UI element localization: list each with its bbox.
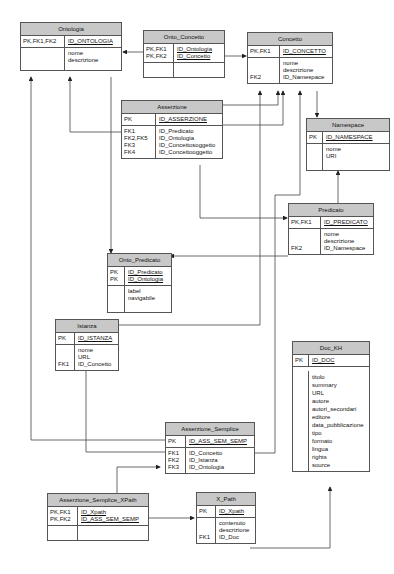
- pk-keys: PK: [166, 436, 186, 447]
- attr-section: [144, 63, 224, 77]
- entity-asserzione-semplice-xpath[interactable]: Asserzione_Semplice_XPath PK,FK1 PK,FK2 …: [47, 493, 149, 541]
- pk-keys: PK: [122, 114, 156, 125]
- entity-title: Onto_Predicato: [108, 254, 171, 267]
- attr-keys: FK2: [289, 229, 321, 254]
- pk-fields: ID_Xpath: [216, 506, 255, 517]
- attr-fields: [174, 63, 224, 77]
- pk-fields: ID_ONTOLOGIA: [65, 36, 121, 47]
- pk-section: PK ID_ISTANZA: [56, 333, 118, 345]
- attr-keys: FK2: [248, 58, 280, 83]
- attr-section: titolo summary URL autore autori_seconda…: [293, 367, 369, 471]
- entity-title: Predicato: [289, 204, 373, 217]
- pk-section: PK ID_DOC: [293, 355, 369, 367]
- attr-section: FK1 contenuto descrizione ID_Doc: [197, 518, 255, 543]
- attr-section: nome descrizione: [21, 48, 121, 70]
- pk-section: PK ID_Xpath: [197, 506, 255, 518]
- pk-field: ID_Predicato ID_Ontologia: [128, 269, 163, 282]
- attr-keys: FK1: [197, 518, 216, 543]
- entity-asserzione-semplice[interactable]: Asserzione_Semplice PK ID_ASS_SEM_SEMP F…: [165, 422, 255, 474]
- pk-field: ID_DOC: [312, 357, 335, 363]
- pk-section: PK,FK1 PK,FK2 ID_Xpath ID_ASS_SEM_SEMP: [48, 507, 148, 526]
- entity-ontologia[interactable]: Ontologia PK,FK1,FK2 ID_ONTOLOGIA nome d…: [20, 22, 122, 71]
- pk-section: PK,FK1 PK,FK2 ID_Ontologia ID_Concetto: [144, 44, 224, 63]
- pk-section: PK ID_ASS_SEM_SEMP: [166, 436, 254, 448]
- pk-field: ID_ISTANZA: [78, 335, 112, 341]
- pk-section: PK ID_ASSERZIONE: [122, 114, 222, 126]
- attr-section: label navigabile: [108, 286, 171, 312]
- pk-keys: PK: [56, 333, 75, 344]
- entity-title: X_Path: [197, 493, 255, 506]
- attr-section: FK1 nome URL ID_Concetto: [56, 345, 118, 370]
- entity-title: Ontologia: [21, 23, 121, 36]
- pk-fields: ID_Xpath ID_ASS_SEM_SEMP: [78, 507, 148, 525]
- entity-title: Asserzione: [122, 101, 222, 114]
- pk-fields: ID_PREDICATO: [321, 217, 373, 228]
- attr-keys: [144, 63, 174, 77]
- relationship-lines: [0, 0, 394, 574]
- attr-fields: titolo summary URL autore autori_seconda…: [309, 371, 369, 471]
- entity-title: Concetto: [248, 33, 332, 46]
- attr-fields: nome URI: [323, 144, 389, 170]
- attr-keys: [48, 526, 78, 540]
- pk-keys: PK,FK1 PK,FK2: [48, 507, 78, 525]
- entity-asserzione[interactable]: Asserzione PK ID_ASSERZIONE FK1 FK2,FK5 …: [121, 100, 223, 159]
- entity-title: Istanza: [56, 320, 118, 333]
- pk-keys: PK: [307, 132, 323, 143]
- pk-field: ID_Xpath: [219, 508, 244, 514]
- attr-fields: ID_Predicato ID_Ontologia ID_Concettosog…: [156, 126, 222, 158]
- attr-keys: [21, 48, 65, 70]
- pk-keys: PK,FK1 PK,FK2: [144, 44, 174, 62]
- pk-field: ID_Xpath ID_ASS_SEM_SEMP: [81, 509, 139, 522]
- pk-fields: ID_Ontologia ID_Concetto: [174, 44, 224, 62]
- entity-title: Asserzione_Semplice_XPath: [48, 494, 148, 507]
- attr-fields: nome descrizione ID_Namespace: [280, 58, 332, 83]
- entity-onto-concetto[interactable]: Onto_Concetto PK,FK1 PK,FK2 ID_Ontologia…: [143, 30, 225, 78]
- pk-section: PK,FK1 ID_CONCETTO: [248, 46, 332, 58]
- attr-fields: ID_Concetto ID_Istanza ID_Ontologia: [186, 448, 254, 473]
- pk-keys: PK,FK1: [289, 217, 321, 228]
- attr-fields: label navigabile: [125, 286, 171, 312]
- attr-keys: FK1 FK2 FK3: [166, 448, 186, 473]
- entity-title: Asserzione_Semplice: [166, 423, 254, 436]
- pk-fields: ID_ISTANZA: [75, 333, 118, 344]
- attr-section: nome URI: [307, 144, 389, 170]
- pk-field: ID_ASSERZIONE: [159, 116, 207, 122]
- entity-doc-kh[interactable]: Doc_KH PK ID_DOC titolo summary URL auto…: [292, 341, 370, 472]
- pk-section: PK PK ID_Predicato ID_Ontologia: [108, 267, 171, 286]
- pk-fields: ID_CONCETTO: [280, 46, 332, 57]
- entity-title: Doc_KH: [293, 342, 369, 355]
- pk-fields: ID_Predicato ID_Ontologia: [125, 267, 171, 285]
- pk-section: PK,FK1,FK2 ID_ONTOLOGIA: [21, 36, 121, 48]
- pk-field: ID_Ontologia ID_Concetto: [177, 46, 212, 59]
- pk-keys: PK PK: [108, 267, 125, 285]
- pk-fields: ID_DOC: [309, 355, 369, 366]
- attr-keys: FK1: [56, 345, 75, 370]
- attr-keys: FK1 FK2,FK5 FK3 FK4: [122, 126, 156, 158]
- attr-fields: nome descrizione ID_Namespace: [321, 229, 373, 254]
- entity-onto-predicato[interactable]: Onto_Predicato PK PK ID_Predicato ID_Ont…: [107, 253, 172, 313]
- attr-section: FK2 nome descrizione ID_Namespace: [248, 58, 332, 83]
- entity-predicato[interactable]: Predicato PK,FK1 ID_PREDICATO FK2 nome d…: [288, 203, 374, 255]
- attr-fields: nome URL ID_Concetto: [75, 345, 118, 370]
- entity-x-path[interactable]: X_Path PK ID_Xpath FK1 contenuto descriz…: [196, 492, 256, 544]
- pk-field: ID_PREDICATO: [324, 219, 368, 225]
- entity-concetto[interactable]: Concetto PK,FK1 ID_CONCETTO FK2 nome des…: [247, 32, 333, 84]
- pk-keys: PK,FK1,FK2: [21, 36, 65, 47]
- pk-fields: ID_NAMESPACE: [323, 132, 389, 143]
- attr-fields: [78, 526, 148, 540]
- pk-field: ID_NAMESPACE: [326, 134, 373, 140]
- attr-section: FK1 FK2,FK5 FK3 FK4 ID_Predicato ID_Onto…: [122, 126, 222, 158]
- attr-fields: nome descrizione: [65, 48, 121, 70]
- pk-field: ID_ASS_SEM_SEMP: [189, 438, 247, 444]
- entity-title: Onto_Concetto: [144, 31, 224, 44]
- pk-keys: PK,FK1: [248, 46, 280, 57]
- attr-section: FK2 nome descrizione ID_Namespace: [289, 229, 373, 254]
- pk-fields: ID_ASS_SEM_SEMP: [186, 436, 254, 447]
- pk-fields: ID_ASSERZIONE: [156, 114, 222, 125]
- pk-section: PK ID_NAMESPACE: [307, 132, 389, 144]
- entity-istanza[interactable]: Istanza PK ID_ISTANZA FK1 nome URL ID_Co…: [55, 319, 119, 371]
- entity-namespace[interactable]: Namespace PK ID_NAMESPACE nome URI: [306, 118, 390, 171]
- attr-section: FK1 FK2 FK3 ID_Concetto ID_Istanza ID_On…: [166, 448, 254, 473]
- entity-title: Namespace: [307, 119, 389, 132]
- pk-field: ID_ONTOLOGIA: [68, 38, 113, 44]
